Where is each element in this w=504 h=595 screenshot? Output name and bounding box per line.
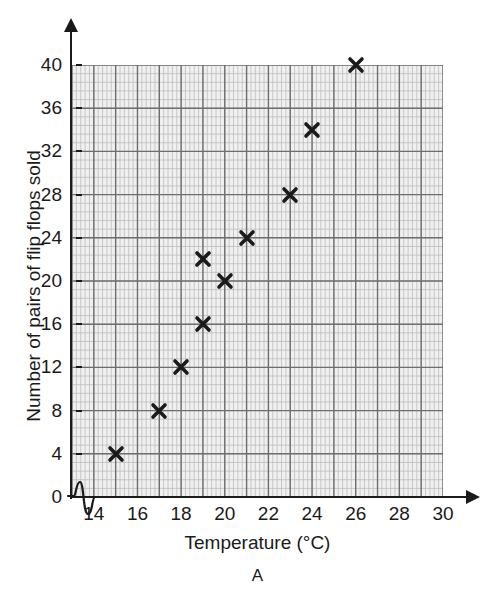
x-tick-label: 18 bbox=[156, 504, 206, 523]
y-axis-title: Number of pairs of flip flops sold bbox=[23, 106, 45, 466]
figure-caption: A bbox=[72, 566, 443, 586]
x-tick-label: 16 bbox=[112, 504, 162, 523]
x-tick-label: 22 bbox=[243, 504, 293, 523]
x-tick-label: 26 bbox=[331, 504, 381, 523]
x-tick-label: 20 bbox=[200, 504, 250, 523]
x-tick-label: 24 bbox=[287, 504, 337, 523]
x-axis-ticks: 141618202224262830 bbox=[0, 0, 504, 595]
scatter-plot-figure: 0481216202428323640 141618202224262830 N… bbox=[0, 0, 504, 595]
x-tick-label: 28 bbox=[374, 504, 424, 523]
x-axis-title: Temperature (°C) bbox=[72, 532, 443, 554]
x-tick-label: 14 bbox=[69, 504, 119, 523]
x-tick-label: 30 bbox=[418, 504, 468, 523]
